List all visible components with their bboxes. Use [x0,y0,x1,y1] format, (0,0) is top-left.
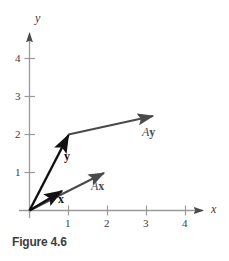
figure-container: x y 1 2 3 4 1 2 3 4 y x Ax Ay Figure 4.6 [0,0,229,261]
figure-caption: Figure 4.6 [12,235,67,249]
vector-label-x: x [58,193,64,205]
vector-label-Ay: Ay [142,126,155,138]
y-tick-label-3: 3 [15,91,21,102]
y-tick-label-2: 2 [15,129,21,140]
x-tick-label-3: 3 [143,218,149,229]
x-axis-label: x [211,203,216,215]
x-tick-label-2: 2 [104,218,110,229]
vector-plot [0,0,229,261]
vector-Ay [69,116,154,135]
y-tick-label-1: 1 [15,167,21,178]
vector-label-Ax: Ax [91,180,104,192]
vector-label-Ax-vector: x [98,179,104,193]
vector-label-y: y [64,150,70,162]
x-tick-label-1: 1 [65,218,71,229]
vector-label-Ay-vector: y [149,125,155,139]
y-axis-label: y [35,12,40,24]
y-tick-label-4: 4 [15,53,21,64]
x-tick-label-4: 4 [182,218,188,229]
